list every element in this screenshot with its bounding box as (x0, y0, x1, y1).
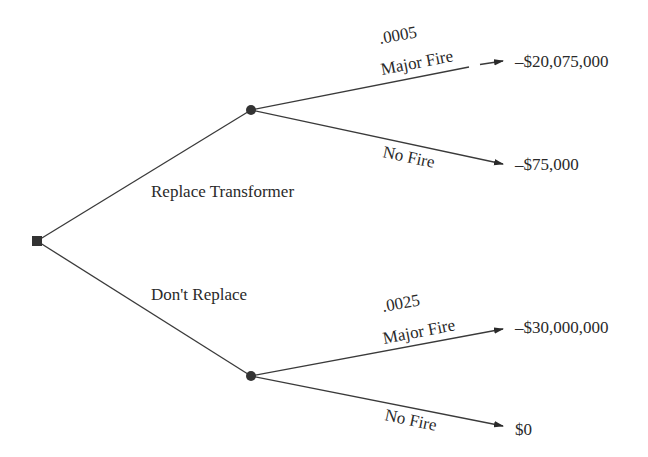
edge-dont-replace (37, 241, 251, 376)
payoff-dont-replace-no-fire: $0 (515, 420, 532, 439)
chance-node-replace (246, 105, 256, 115)
chance-node-dont-replace (246, 371, 256, 381)
outcome-label-replace-no-fire: No Fire (381, 142, 436, 171)
decision-label-replace: Replace Transformer (151, 182, 294, 201)
edge-replace-transformer (37, 110, 251, 241)
payoff-dont-replace-major-fire: –$30,000,000 (514, 318, 609, 337)
edge-dont-replace-no-fire (251, 376, 503, 426)
edge-replace-no-fire (251, 110, 503, 164)
decision-tree-diagram: Replace Transformer Don't Replace .0005 … (0, 0, 648, 457)
outcome-label-dont-replace-major-fire: Major Fire (381, 315, 456, 348)
edge-replace-major-fire (251, 67, 469, 110)
outcome-label-replace-major-fire: Major Fire (379, 46, 454, 79)
edge-replace-major-fire-arrow (480, 61, 503, 65)
edge-dont-replace-major-fire (251, 329, 503, 376)
decision-label-dont-replace: Don't Replace (151, 285, 247, 304)
decision-node-square (32, 236, 42, 246)
probability-replace-major-fire: .0005 (377, 23, 418, 48)
payoff-replace-major-fire: –$20,075,000 (514, 52, 609, 71)
probability-dont-replace-major-fire: .0025 (380, 291, 421, 316)
outcome-label-dont-replace-no-fire: No Fire (383, 405, 438, 434)
payoff-replace-no-fire: –$75,000 (514, 155, 579, 174)
